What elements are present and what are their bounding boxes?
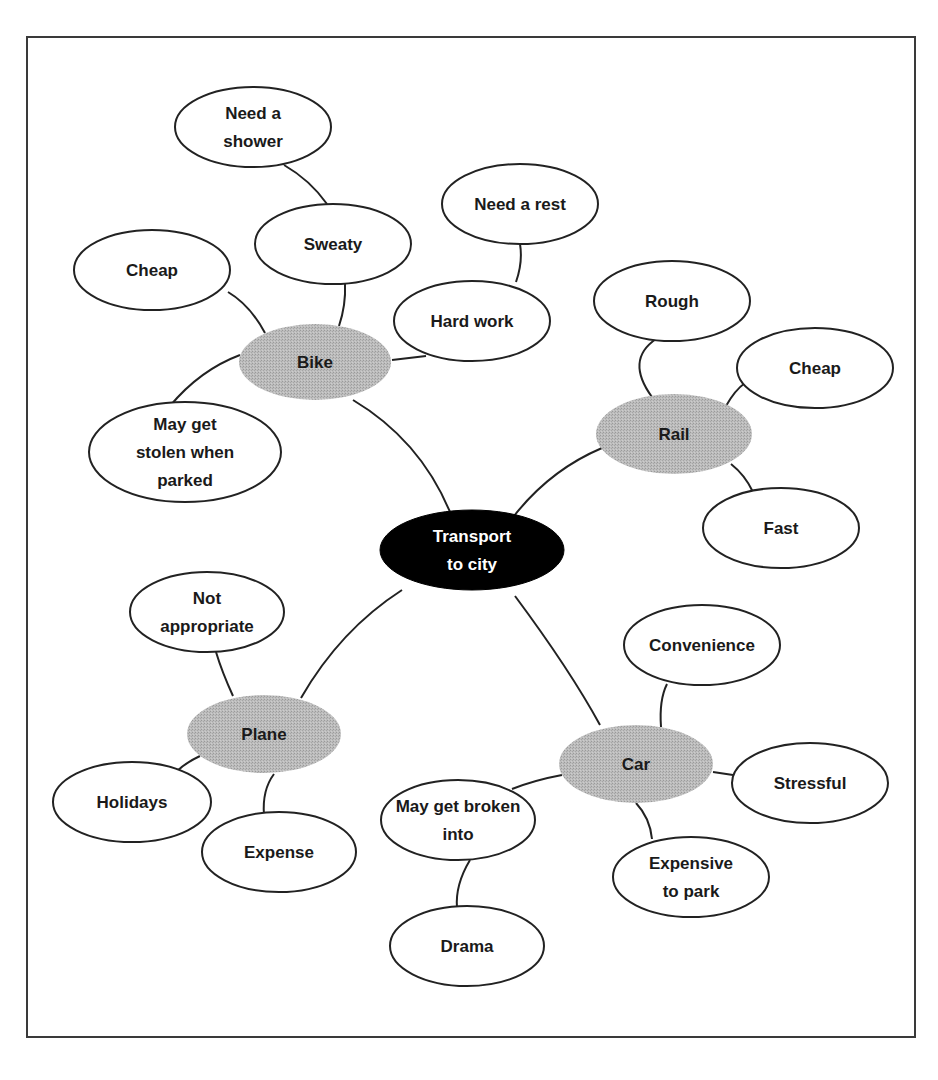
connector-car-to-car-expensive-park (636, 803, 652, 839)
node-label: appropriate (160, 617, 254, 636)
node-bike: Bike (239, 324, 391, 400)
connector-central-to-rail (514, 448, 602, 516)
node-label: Rail (658, 425, 689, 444)
node-label: Fast (764, 519, 799, 538)
connector-bike-to-bike-stolen (170, 355, 240, 406)
connector-car-to-car-stressful (713, 772, 733, 775)
node-car-drama: Drama (390, 906, 544, 986)
node-car-stressful: Stressful (732, 743, 888, 823)
connector-car-to-car-brokeninto (512, 775, 562, 789)
connector-bike-to-bike-sweaty (339, 284, 345, 326)
node-label: to city (447, 555, 498, 574)
node-bike-hardwork: Hard work (394, 281, 550, 361)
node-car-convenience: Convenience (624, 605, 780, 685)
node-rail-cheap: Cheap (737, 328, 893, 408)
node-label: Transport (433, 527, 512, 546)
node-bike-shower: Need ashower (175, 87, 331, 167)
node-label: Drama (441, 937, 494, 956)
node-label: Car (622, 755, 651, 774)
node-plane-expense: Expense (202, 812, 356, 892)
connector-central-to-plane (301, 590, 402, 698)
mind-map: Transportto cityBikeCheapSweatyNeed asho… (0, 0, 938, 1080)
node-plane: Plane (187, 695, 341, 773)
connector-central-to-bike (353, 400, 450, 512)
node-plane-notappropriate: Notappropriate (130, 572, 284, 652)
node-label: Sweaty (304, 235, 363, 254)
node-bike-cheap: Cheap (74, 230, 230, 310)
connector-rail-to-rail-fast (731, 464, 753, 492)
node-car: Car (559, 725, 713, 803)
node-label: Expensive (649, 854, 733, 873)
leaf-ellipse (175, 87, 331, 167)
connector-rail-to-rail-cheap (726, 383, 745, 406)
leaf-ellipse (613, 837, 769, 917)
node-car-expensive-park: Expensiveto park (613, 837, 769, 917)
nodes: Transportto cityBikeCheapSweatyNeed asho… (53, 87, 893, 986)
node-label: Convenience (649, 636, 755, 655)
node-rail-fast: Fast (703, 488, 859, 568)
leaf-ellipse (130, 572, 284, 652)
central-ellipse (380, 510, 564, 590)
connector-rail-to-rail-rough (639, 339, 656, 397)
node-label: parked (157, 471, 213, 490)
node-label: Bike (297, 353, 333, 372)
node-label: shower (223, 132, 283, 151)
node-label: Rough (645, 292, 699, 311)
node-bike-rest: Need a rest (442, 164, 598, 244)
node-plane-holidays: Holidays (53, 762, 211, 842)
node-bike-sweaty: Sweaty (255, 204, 411, 284)
connector-bike-to-bike-cheap (228, 292, 265, 333)
leaf-ellipse (381, 780, 535, 860)
node-label: to park (663, 882, 720, 901)
node-label: stolen when (136, 443, 234, 462)
connector-bike-sweaty-to-bike-shower (284, 165, 327, 204)
connector-plane-to-plane-expense (264, 774, 274, 815)
node-label: Expense (244, 843, 314, 862)
node-label: May get broken (396, 797, 521, 816)
node-label: Holidays (97, 793, 168, 812)
node-label: into (442, 825, 473, 844)
node-label: Need a (225, 104, 281, 123)
node-label: Need a rest (474, 195, 566, 214)
node-label: Plane (241, 725, 286, 744)
node-central: Transportto city (380, 510, 564, 590)
connector-bike-to-bike-hardwork (392, 356, 426, 360)
connector-plane-to-plane-notappropriate (216, 652, 233, 696)
node-label: Stressful (774, 774, 847, 793)
node-label: Hard work (430, 312, 514, 331)
node-label: Not (193, 589, 222, 608)
connector-car-brokeninto-to-car-drama (457, 860, 470, 908)
node-label: May get (153, 415, 217, 434)
connector-bike-hardwork-to-bike-rest (516, 244, 521, 282)
node-label: Cheap (126, 261, 178, 280)
connector-central-to-car (515, 596, 600, 725)
node-label: Cheap (789, 359, 841, 378)
connector-car-to-car-convenience (661, 684, 667, 727)
node-bike-stolen: May getstolen whenparked (89, 402, 281, 502)
node-rail-rough: Rough (594, 261, 750, 341)
node-rail: Rail (596, 394, 752, 474)
node-car-brokeninto: May get brokeninto (381, 780, 535, 860)
